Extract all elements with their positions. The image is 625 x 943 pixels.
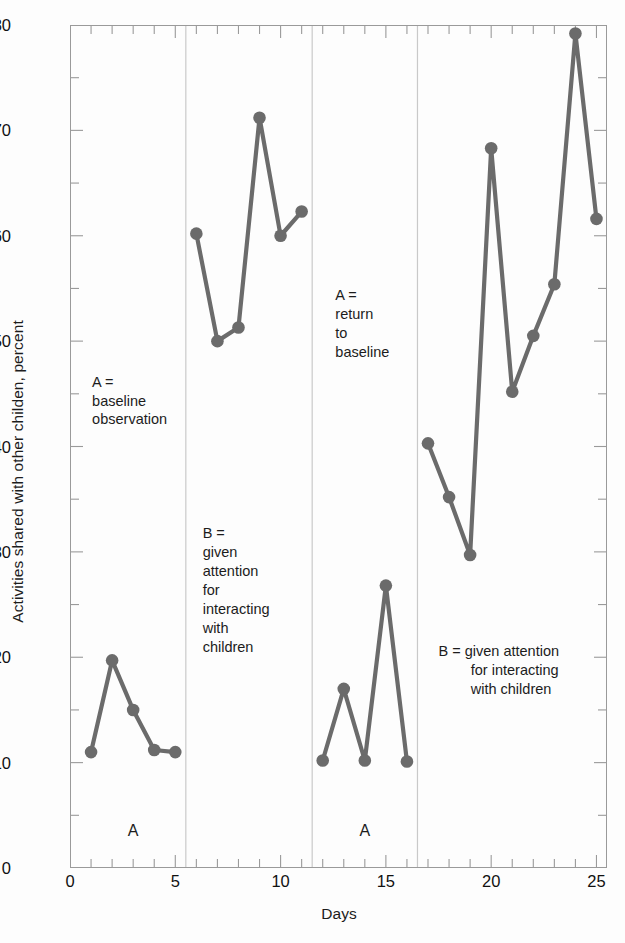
y-tick-label: 0 bbox=[0, 859, 11, 878]
data-point-marker bbox=[316, 754, 329, 767]
annot-b-given-attention: B = given attention for interacting with… bbox=[203, 524, 270, 656]
data-point-marker bbox=[253, 111, 266, 124]
data-point-marker bbox=[401, 755, 414, 768]
y-axis-title: Activities shared with other childen, pe… bbox=[0, 0, 36, 943]
data-point-marker bbox=[274, 229, 287, 242]
data-point-marker bbox=[359, 754, 372, 767]
data-point-marker bbox=[548, 278, 561, 291]
x-tick-label: 0 bbox=[48, 872, 92, 891]
phase-label-a1: A bbox=[128, 822, 139, 840]
plot-area: A = baseline observationB = given attent… bbox=[70, 25, 607, 868]
data-point-marker bbox=[464, 549, 477, 562]
annot-a-baseline: A = baseline observation bbox=[92, 373, 167, 430]
data-line-segment bbox=[323, 586, 407, 762]
x-tick-label: 25 bbox=[574, 872, 618, 891]
data-point-marker bbox=[106, 654, 119, 667]
data-point-marker bbox=[506, 385, 519, 398]
data-point-marker bbox=[169, 746, 182, 759]
data-point-marker bbox=[590, 213, 603, 226]
data-point-marker bbox=[380, 579, 393, 592]
data-point-marker bbox=[527, 330, 540, 343]
y-tick-label: 30 bbox=[0, 542, 11, 561]
data-line-segment bbox=[196, 118, 301, 341]
x-tick-label: 20 bbox=[469, 872, 513, 891]
data-point-marker bbox=[485, 142, 498, 155]
x-axis-title: Days bbox=[70, 905, 608, 923]
phase-label-a2: A bbox=[359, 822, 370, 840]
data-point-marker bbox=[569, 27, 582, 40]
annot-a-return: A = return to baseline bbox=[335, 286, 389, 361]
annot-b-given-attention-2: B = given attention for interacting with… bbox=[439, 642, 560, 699]
data-point-marker bbox=[295, 205, 308, 218]
data-point-marker bbox=[127, 704, 140, 717]
minor-ticks bbox=[91, 25, 596, 868]
data-line-segment bbox=[428, 33, 596, 555]
data-point-marker bbox=[232, 321, 245, 334]
y-tick-label: 80 bbox=[0, 16, 11, 35]
x-tick-label: 15 bbox=[364, 872, 408, 891]
x-tick-label: 5 bbox=[153, 872, 197, 891]
data-point-marker bbox=[148, 744, 161, 757]
phase-divider-lines bbox=[186, 25, 418, 868]
chart-canvas bbox=[70, 25, 607, 868]
y-tick-label: 20 bbox=[0, 648, 11, 667]
data-point-marker bbox=[422, 437, 435, 450]
data-point-marker bbox=[443, 491, 456, 504]
y-tick-label: 40 bbox=[0, 437, 11, 456]
data-point-marker bbox=[337, 683, 350, 696]
y-tick-label: 60 bbox=[0, 226, 11, 245]
y-tick-label: 50 bbox=[0, 332, 11, 351]
chart-figure: Activities shared with other childen, pe… bbox=[0, 0, 625, 943]
data-point-marker bbox=[85, 746, 98, 759]
y-tick-label: 10 bbox=[0, 753, 11, 772]
x-tick-label: 10 bbox=[259, 872, 303, 891]
data-point-marker bbox=[211, 335, 224, 348]
y-tick-label: 70 bbox=[0, 121, 11, 140]
data-point-marker bbox=[190, 227, 203, 240]
